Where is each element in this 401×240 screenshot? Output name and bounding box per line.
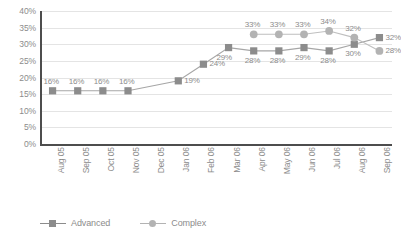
x-axis-tick-label: May 06 [283, 147, 292, 193]
data-label: 16% [44, 78, 59, 86]
gridline [40, 94, 392, 95]
data-label: 19% [184, 77, 199, 85]
y-axis-tick-label: 10% [2, 107, 36, 115]
y-axis-tick-label: 20% [2, 74, 36, 82]
square-marker-icon [40, 218, 66, 228]
data-label: 28% [320, 57, 335, 65]
y-axis-tick-labels: 40%35%30%25%20%15%10%5%0% [0, 0, 36, 160]
data-label: 30% [345, 50, 360, 58]
y-axis-tick-label: 40% [2, 7, 36, 15]
gridline [40, 28, 392, 29]
data-label: 28% [245, 57, 260, 65]
x-axis-line [40, 144, 392, 146]
data-label: 28% [385, 47, 400, 55]
data-label: 33% [270, 21, 285, 29]
data-label: 32% [385, 34, 400, 42]
data-label: 34% [320, 18, 335, 26]
gridline [40, 111, 392, 112]
y-axis-tick-label: 15% [2, 90, 36, 98]
x-axis-tick-label: Jul 06 [333, 147, 342, 193]
data-label: 28% [270, 57, 285, 65]
data-label: 29% [295, 54, 310, 62]
legend-item-advanced[interactable]: Advanced [40, 218, 110, 228]
x-axis-tick-label: Oct 05 [107, 147, 116, 193]
data-label: 32% [345, 25, 360, 33]
data-label: 33% [295, 21, 310, 29]
circle-marker-icon [140, 218, 166, 228]
x-axis-tick-labels: Aug 05Sep 05Oct 05Nov 05Dec 05Jan 06Feb … [40, 147, 392, 197]
x-axis-tick-label: Aug 05 [57, 147, 66, 193]
legend-marker [149, 220, 156, 227]
x-axis-tick-label: Sep 06 [383, 147, 392, 193]
chart-legend: AdvancedComplex [40, 213, 360, 233]
x-axis-tick-label: Aug 06 [358, 147, 367, 193]
x-axis-tick-label: Jan 06 [182, 147, 191, 193]
y-axis-tick-label: 25% [2, 57, 36, 65]
y-axis-tick-label: 30% [2, 40, 36, 48]
x-axis-tick-label: Apr 06 [258, 147, 267, 193]
x-axis-tick-label: Jun 06 [308, 147, 317, 193]
y-axis-tick-label: 0% [2, 140, 36, 148]
x-axis-tick-label: Dec 05 [157, 147, 166, 193]
x-axis-tick-label: Feb 06 [207, 147, 216, 193]
plot-area [40, 11, 392, 144]
x-axis-tick-label: Sep 05 [82, 147, 91, 193]
data-label: 16% [69, 78, 84, 86]
legend-item-complex[interactable]: Complex [140, 218, 206, 228]
y-axis-line [40, 11, 42, 145]
gridline [40, 44, 392, 45]
gridline [40, 78, 392, 79]
data-label: 29% [217, 54, 232, 62]
data-label: 16% [119, 78, 134, 86]
legend-label: Complex [171, 219, 206, 228]
x-axis-tick-label: Nov 05 [132, 147, 141, 193]
gridline [40, 127, 392, 128]
data-label: 16% [94, 78, 109, 86]
data-label: 33% [245, 21, 260, 29]
gridline [40, 11, 392, 12]
legend-label: Advanced [71, 219, 110, 228]
x-axis-tick-label: Mar 06 [233, 147, 242, 193]
y-axis-tick-label: 35% [2, 24, 36, 32]
y-axis-tick-label: 5% [2, 123, 36, 131]
legend-marker [49, 220, 56, 227]
